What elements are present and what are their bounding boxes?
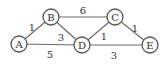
- node-label: B: [47, 12, 54, 23]
- node-label: E: [146, 40, 153, 51]
- node-label: A: [14, 39, 23, 50]
- weight-b-d: 3: [58, 32, 64, 43]
- node-label: D: [78, 40, 86, 51]
- node-e: E: [142, 37, 158, 53]
- weight-a-b: 1: [29, 22, 35, 33]
- node-d: D: [74, 37, 90, 53]
- weight-b-c: 6: [80, 5, 86, 16]
- node-b: B: [43, 9, 59, 25]
- weight-d-e: 3: [111, 50, 117, 61]
- node-c: C: [107, 9, 123, 25]
- weight-c-e: 1: [132, 23, 138, 34]
- edge-a-d: [19, 44, 82, 45]
- weight-c-d: 1: [101, 31, 107, 42]
- weight-a-d: 5: [47, 49, 53, 60]
- node-a: A: [11, 36, 27, 52]
- weighted-graph: 1 6 3 5 1 1 3 A B C D E: [0, 0, 163, 64]
- node-label: C: [111, 12, 119, 23]
